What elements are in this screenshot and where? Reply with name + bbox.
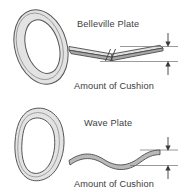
belleville-cushion-label: Amount of Cushion <box>74 81 154 91</box>
wave-plate-label: Wave Plate <box>84 118 132 128</box>
wave-cushion-label: Amount of Cushion <box>74 179 154 189</box>
belleville-plate-label: Belleville Plate <box>77 19 139 29</box>
figure-root: Belleville Plate Amount of Cushion <box>0 0 185 192</box>
spring-washer-diagram: Belleville Plate Amount of Cushion <box>0 0 185 192</box>
